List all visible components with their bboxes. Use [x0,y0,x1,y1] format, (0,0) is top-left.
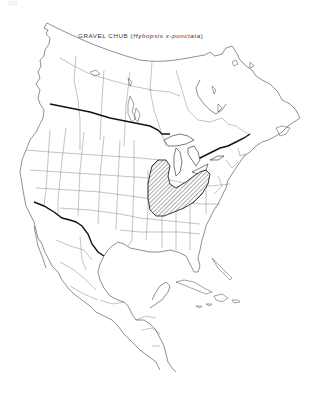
map-page: 102 GRAVEL CHUB (Hybopsis x-punctata) [0,0,317,394]
us-canada-border [50,104,170,134]
us-mexico-border [34,202,104,256]
arctic-islands [90,60,290,136]
great-lakes [164,134,224,176]
province-borders [60,56,248,150]
north-america-map [0,0,317,394]
mexico-borders [56,236,160,346]
state-borders [26,128,246,250]
caribbean-islands [176,258,240,308]
